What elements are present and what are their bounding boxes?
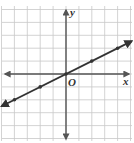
data-point [90,59,94,63]
origin-label: O [68,76,76,88]
coordinate-plane: y x O [0,0,134,143]
data-point [116,46,120,50]
x-axis-label: x [122,75,129,87]
data-point [38,85,42,89]
y-axis-label: y [68,6,75,18]
data-point [13,98,17,102]
